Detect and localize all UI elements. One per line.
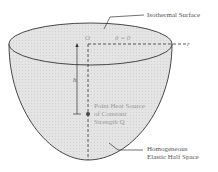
heat-source-label-1: Point Heat Source [94, 102, 145, 110]
origin-label: O [85, 34, 90, 42]
heat-source-point [86, 112, 90, 116]
halfspace-label-2: Elastic Half Space [147, 153, 199, 161]
heat-source-label-3: Strength Q [94, 118, 125, 126]
theta-label: θ = 0 [115, 34, 130, 42]
heat-source-label-2: of Constant [94, 110, 126, 118]
isothermal-surface-label: Isothermal Surface [147, 11, 200, 19]
h-label: h [73, 76, 77, 84]
r-axis-label: r [187, 40, 190, 48]
halfspace-label-1: Homogeneous [147, 145, 187, 153]
